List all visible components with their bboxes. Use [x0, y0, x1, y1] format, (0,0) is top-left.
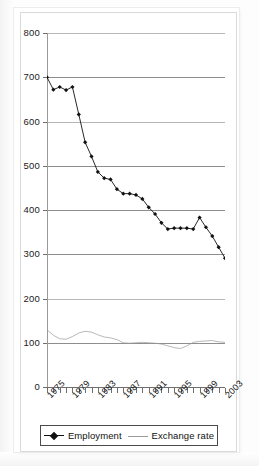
- chart-legend: Employment Exchange rate: [40, 425, 218, 446]
- data-point-marker: [77, 112, 81, 116]
- legend-label-employment: Employment: [68, 430, 122, 441]
- exchange-rate-line-swatch-icon: [128, 432, 148, 440]
- x-tick-1982: [92, 388, 93, 393]
- x-tick-2002: [219, 388, 220, 393]
- data-point-marker: [64, 88, 68, 92]
- legend-item-employment: Employment: [44, 430, 122, 441]
- x-tick-1998: [193, 388, 194, 393]
- y-tick-label-100: 100: [10, 338, 40, 347]
- data-point-marker: [134, 193, 138, 197]
- x-tick-1990: [142, 388, 143, 393]
- y-tick-label-0: 0: [10, 382, 40, 391]
- data-point-marker: [185, 226, 189, 230]
- series-line-employment: [47, 77, 225, 258]
- data-point-marker: [51, 88, 55, 92]
- y-tick-label-600: 600: [10, 117, 40, 126]
- x-tick-1978: [66, 388, 67, 393]
- line-chart: 8007006005004003002001000 19751979198319…: [0, 0, 259, 466]
- data-point-marker: [58, 85, 62, 89]
- series-line-exchange-rate: [47, 330, 225, 349]
- data-point-marker: [217, 245, 221, 249]
- data-point-marker: [178, 226, 182, 230]
- data-point-marker: [83, 140, 87, 144]
- legend-item-exchange-rate: Exchange rate: [128, 430, 215, 441]
- data-point-marker: [191, 227, 195, 231]
- y-tick-label-500: 500: [10, 161, 40, 170]
- data-point-marker: [128, 192, 132, 196]
- y-tick-label-400: 400: [10, 205, 40, 214]
- legend-label-exchange-rate: Exchange rate: [152, 430, 215, 441]
- y-tick-label-300: 300: [10, 249, 40, 258]
- data-point-marker: [172, 226, 176, 230]
- data-point-marker: [89, 154, 93, 158]
- x-tick-label-2003: 2003: [223, 378, 245, 400]
- y-tick-label-200: 200: [10, 294, 40, 303]
- series-plot-area: [47, 33, 225, 387]
- x-tick-1994: [168, 388, 169, 393]
- y-tick-label-800: 800: [10, 28, 40, 37]
- y-tick-label-700: 700: [10, 72, 40, 81]
- data-point-marker: [70, 85, 74, 89]
- x-tick-1986: [117, 388, 118, 393]
- employment-line-swatch-icon: [44, 432, 64, 440]
